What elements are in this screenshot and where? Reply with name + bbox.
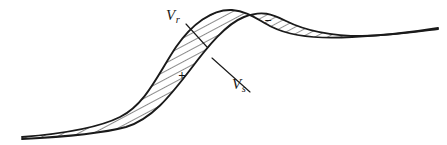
positive-sign-glyph: + <box>178 67 185 82</box>
label-vs-subscript: s <box>242 83 246 94</box>
sigmoid-curves-diagram: + − <box>0 0 447 145</box>
negative-sign-glyph: − <box>264 13 271 28</box>
positive-hatch-fill <box>0 0 447 145</box>
label-vs-base: V <box>232 76 241 92</box>
figure-container: + − Vr Vs <box>0 0 447 145</box>
label-vr: Vr <box>166 8 180 25</box>
label-vr-subscript: r <box>176 14 180 25</box>
positive-region-hatching <box>0 0 447 145</box>
curve-vs <box>22 13 438 139</box>
label-vr-base: V <box>166 7 175 23</box>
label-vs: Vs <box>232 77 246 94</box>
